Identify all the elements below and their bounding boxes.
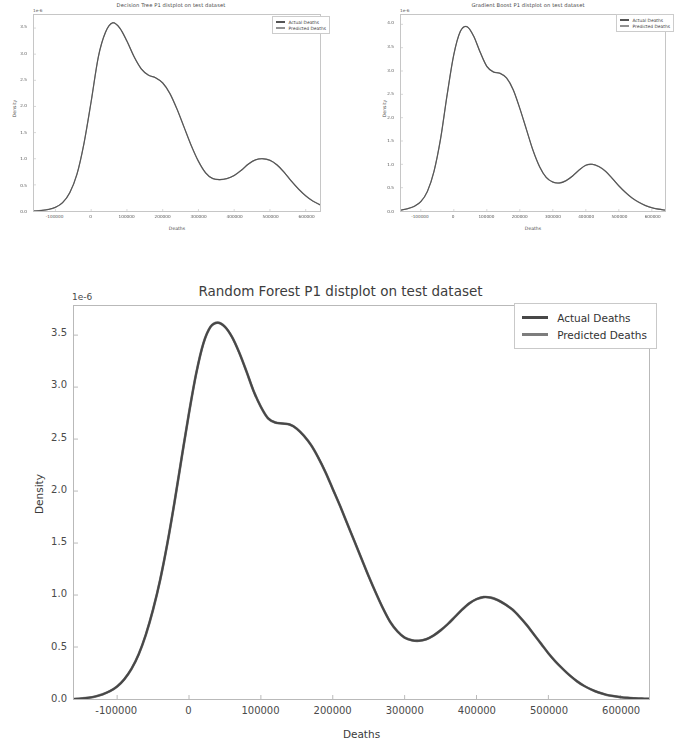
density-curves	[34, 15, 320, 211]
legend-item[interactable]: Actual Deaths	[522, 309, 647, 326]
y-tick-label: 3.0	[350, 68, 394, 73]
x-axis-label: Deaths	[73, 728, 650, 740]
chart-title: Random Forest P1 distplot on test datase…	[0, 283, 681, 299]
chart-title: Decision Tree P1 distplot on test datase…	[6, 2, 336, 8]
legend-gradient-boost: Actual DeathsPredicted Deaths	[616, 14, 674, 32]
legend-label: Predicted Deaths	[288, 26, 326, 31]
series-line-actual-deaths	[401, 26, 665, 210]
y-tick-label: 2.5	[0, 77, 27, 82]
y-tick-label: 2.5	[23, 432, 67, 443]
legend-label: Predicted Deaths	[557, 329, 647, 341]
plot-area-decision-tree	[33, 14, 321, 212]
y-tick-label: 0.5	[23, 641, 67, 652]
legend-swatch-actual-deaths	[522, 316, 548, 319]
chart-title: Gradient Boost P1 distplot on test datas…	[378, 2, 678, 8]
y-tick-label: 0.0	[0, 209, 27, 214]
x-tick-label: 200000	[293, 705, 373, 716]
y-tick-label: 0.5	[0, 183, 27, 188]
y-tick-label: 3.5	[0, 24, 27, 29]
y-tick-label: 0.5	[350, 185, 394, 190]
plot-area-random-forest	[73, 305, 650, 700]
y-tick-label: 1.0	[0, 156, 27, 161]
y-axis-offset-text: 1e-6	[33, 8, 42, 13]
legend-label: Actual Deaths	[288, 20, 319, 25]
y-tick-label: 0.0	[23, 693, 67, 704]
legend-label: Actual Deaths	[632, 18, 663, 23]
x-axis-label: Deaths	[400, 226, 666, 231]
y-tick-label: 2.0	[0, 103, 27, 108]
legend-item[interactable]: Predicted Deaths	[620, 23, 670, 29]
y-tick-label: 3.5	[350, 44, 394, 49]
legend-swatch-actual-deaths	[620, 19, 629, 21]
x-tick-label: 300000	[365, 705, 445, 716]
y-tick-label: 2.0	[350, 115, 394, 120]
series-line-predicted-deaths	[34, 23, 320, 211]
series-line-actual-deaths	[74, 323, 649, 699]
x-tick-label: 500000	[509, 705, 589, 716]
series-line-predicted-deaths	[74, 323, 649, 699]
legend-swatch-actual-deaths	[276, 21, 285, 23]
y-axis-offset-text: 1e-6	[72, 292, 92, 302]
figure-random-forest: Random Forest P1 distplot on test datase…	[0, 283, 681, 750]
x-tick-label: 400000	[437, 705, 517, 716]
figure-page: Decision Tree P1 distplot on test datase…	[0, 0, 681, 750]
y-tick-label: 3.5	[23, 327, 67, 338]
series-line-actual-deaths	[34, 23, 320, 211]
x-tick-label: 600000	[613, 214, 681, 219]
x-tick-label: 100000	[221, 705, 301, 716]
density-curves	[401, 15, 665, 211]
figure-decision-tree: Decision Tree P1 distplot on test datase…	[6, 0, 336, 240]
x-axis-label: Deaths	[33, 226, 321, 231]
legend-swatch-predicted-deaths	[276, 27, 285, 28]
y-tick-label: 1.5	[23, 536, 67, 547]
series-line-predicted-deaths	[401, 26, 665, 210]
x-tick-label: 0	[148, 705, 228, 716]
legend-item[interactable]: Predicted Deaths	[276, 25, 326, 31]
y-axis-label: Density	[12, 89, 17, 129]
y-tick-label: 1.0	[350, 162, 394, 167]
y-tick-label: 1.0	[23, 588, 67, 599]
figure-gradient-boost: Gradient Boost P1 distplot on test datas…	[378, 0, 678, 240]
density-curves	[74, 306, 649, 699]
legend-label: Actual Deaths	[557, 312, 630, 324]
x-tick-label: -100000	[76, 705, 156, 716]
legend-swatch-predicted-deaths	[620, 25, 629, 26]
y-tick-label: 3.0	[23, 379, 67, 390]
y-tick-label: 4.0	[350, 20, 394, 25]
legend-random-forest: Actual DeathsPredicted Deaths	[514, 303, 657, 349]
y-tick-label: 2.0	[23, 484, 67, 495]
legend-swatch-predicted-deaths	[522, 333, 548, 335]
legend-decision-tree: Actual DeathsPredicted Deaths	[272, 16, 330, 34]
x-tick-label: 600000	[267, 214, 347, 219]
plot-area-gradient-boost	[400, 14, 666, 212]
x-tick-label: 600000	[581, 705, 661, 716]
y-tick-label: 1.5	[0, 130, 27, 135]
y-tick-label: 2.5	[350, 91, 394, 96]
legend-label: Predicted Deaths	[632, 24, 670, 29]
y-tick-label: 1.5	[350, 138, 394, 143]
legend-item[interactable]: Predicted Deaths	[522, 326, 647, 343]
y-tick-label: 0.0	[350, 209, 394, 214]
y-tick-label: 3.0	[0, 51, 27, 56]
y-axis-offset-text: 1e-6	[400, 8, 409, 13]
